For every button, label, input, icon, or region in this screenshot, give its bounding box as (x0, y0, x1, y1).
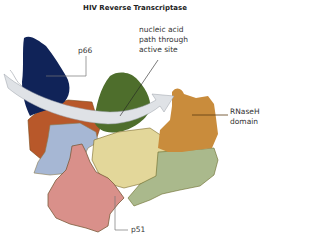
rnaseh-label-line2: domain (230, 117, 260, 127)
p51-label: p51 (131, 225, 145, 235)
nucleic-acid-label-line2: path through (139, 35, 188, 45)
nucleic-acid-label: nucleic acid path through active site (139, 25, 188, 55)
p66-label: p66 (78, 46, 92, 56)
rnaseh-label-line1: RNaseH (230, 107, 260, 117)
nucleic-acid-label-line3: active site (139, 45, 188, 55)
nucleic-acid-label-line1: nucleic acid (139, 25, 188, 35)
rnaseh-label: RNaseH domain (230, 107, 260, 127)
